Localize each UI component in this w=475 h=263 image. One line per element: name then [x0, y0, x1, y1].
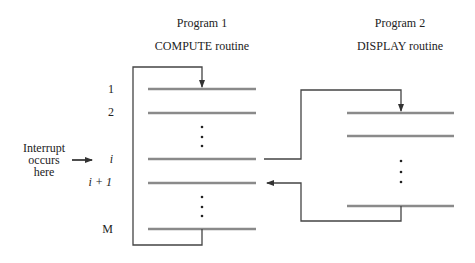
return-arrow	[267, 183, 401, 221]
program2-instructions	[347, 113, 454, 206]
interrupt-flow-diagram	[0, 0, 475, 263]
program1-ellipsis-upper-icon	[201, 126, 204, 148]
interrupt-transfer-arrow	[264, 90, 401, 159]
program2-ellipsis-icon	[400, 160, 403, 184]
program1-loop-arrow	[133, 67, 202, 245]
program1-ellipsis-lower-icon	[201, 196, 204, 218]
